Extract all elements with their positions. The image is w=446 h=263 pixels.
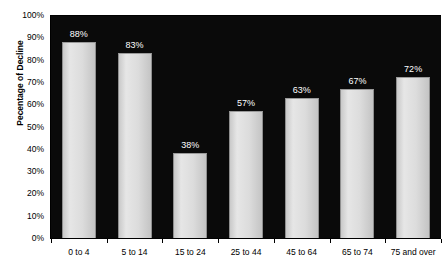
x-axis-tick-mark [441,239,442,243]
x-axis-category-label: 25 to 44 [231,247,262,257]
y-axis-tick-label: 50% [14,122,44,132]
bar-value-label: 88% [70,29,88,39]
bar-group[interactable]: 72% [385,16,441,238]
x-axis-category-label: 15 to 24 [175,247,206,257]
bar[interactable] [229,111,263,238]
x-axis-category-label: 45 to 64 [286,247,317,257]
x-axis-tick-mark [218,239,219,243]
bar[interactable] [340,89,374,238]
y-axis-tick-label: 80% [14,55,44,65]
bar-group[interactable]: 83% [107,16,163,238]
x-axis-tick-mark [162,239,163,243]
x-axis-category-label: 0 to 4 [68,247,89,257]
bar-value-label: 57% [237,98,255,108]
y-axis-tick-label: 30% [14,166,44,176]
bar[interactable] [118,53,152,238]
bar-group[interactable]: 88% [51,16,107,238]
y-axis-tick-label: 20% [14,188,44,198]
x-axis-tick-mark [51,239,52,243]
x-axis-category-label: 5 to 14 [122,247,148,257]
bar-value-label: 83% [126,40,144,50]
bar-group[interactable]: 67% [330,16,386,238]
bar-group[interactable]: 38% [162,16,218,238]
bar-value-label: 63% [293,85,311,95]
bar[interactable] [62,42,96,238]
bar-value-label: 38% [181,140,199,150]
plot-area: 88%83%38%57%63%67%72% [51,15,441,238]
bar-value-label: 67% [348,76,366,86]
x-axis-tick-mark [330,239,331,243]
x-axis-tick-mark [385,239,386,243]
x-axis-tick-mark [274,239,275,243]
bar-chart: since 1942 Pecentage of Decline 0%10%20%… [0,0,446,263]
y-axis-tick-labels: 0%10%20%30%40%50%60%70%80%90%100% [14,15,44,238]
bar-group[interactable]: 63% [274,16,330,238]
bar[interactable] [173,153,207,238]
y-axis-tick-label: 40% [14,144,44,154]
bar[interactable] [285,98,319,238]
y-axis-tick-label: 70% [14,77,44,87]
bar[interactable] [396,77,430,238]
y-axis-tick-label: 0% [14,233,44,243]
y-axis-tick-label: 100% [14,10,44,20]
y-axis-tick-label: 10% [14,211,44,221]
bar-value-label: 72% [404,64,422,74]
y-axis-tick-label: 60% [14,99,44,109]
y-axis-tick-label: 90% [14,32,44,42]
chart-title: since 1942 [51,0,114,3]
x-axis-category-label: 75 and over [391,247,436,257]
x-axis-category-label: 65 to 74 [342,247,373,257]
x-axis-tick-mark [107,239,108,243]
bar-group[interactable]: 57% [218,16,274,238]
x-axis-line [50,238,441,239]
